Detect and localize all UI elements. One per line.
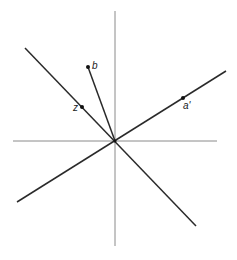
label-z: z — [73, 103, 78, 113]
line-through-z — [25, 48, 196, 226]
label-b: b — [92, 61, 98, 71]
vector-diagram — [0, 0, 237, 260]
origin-point — [114, 140, 117, 143]
line-through-a-prime — [17, 71, 226, 202]
point-z — [80, 105, 84, 109]
point-b — [86, 65, 90, 69]
segment-to-b — [88, 67, 115, 141]
label-a-prime: a' — [183, 101, 190, 111]
